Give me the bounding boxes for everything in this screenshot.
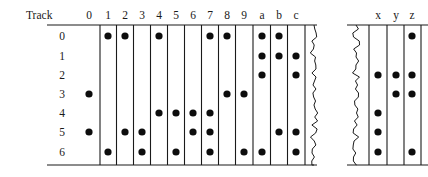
left-dot-r4-c5: [172, 109, 179, 116]
right-dot-r5-cx: [374, 128, 381, 135]
left-dot-r3-c8: [223, 90, 230, 97]
left-dot-r4-c4: [155, 109, 162, 116]
left-dot-r3-c0: [85, 90, 92, 97]
column-header-9: 9: [241, 9, 247, 21]
column-header-7: 7: [207, 9, 213, 21]
mark-dot-group: [85, 32, 415, 155]
row-label-1: 1: [59, 50, 65, 62]
left-dot-r0-c4: [155, 32, 162, 39]
row-label-group: 0123456: [59, 30, 65, 158]
right-dot-r3-cy: [392, 90, 399, 97]
left-dot-r5-c6: [189, 128, 196, 135]
right-dot-r2-cz: [408, 71, 415, 78]
track-header-label: Track: [26, 9, 53, 21]
column-header-6: 6: [190, 9, 196, 21]
break-indicator-group: [310, 25, 359, 165]
left-dot-r0-c7: [206, 32, 213, 39]
right-dot-r3-cz: [408, 90, 415, 97]
left-dot-r2-cc: [292, 71, 299, 78]
left-dot-r0-cb: [275, 32, 282, 39]
left-dot-r0-c2: [121, 32, 128, 39]
left-dot-r6-c7: [206, 148, 213, 155]
column-header-a: a: [259, 9, 264, 21]
left-dot-r5-cb: [275, 128, 282, 135]
punched-tape-track-diagram: Track 0123456789abcxyz 0123456: [0, 0, 428, 177]
left-dot-r5-c7: [206, 128, 213, 135]
row-label-4: 4: [59, 107, 65, 119]
left-dot-r6-c3: [138, 148, 145, 155]
left-dot-r5-c0: [85, 128, 92, 135]
right-panel-left-tear: [353, 25, 360, 165]
right-dot-r2-cx: [374, 71, 381, 78]
column-header-group: 0123456789abcxyz: [86, 9, 414, 22]
column-header-1: 1: [105, 9, 111, 21]
left-dot-r3-c9: [240, 90, 247, 97]
left-dot-r6-c5: [172, 148, 179, 155]
column-header-0: 0: [86, 9, 92, 21]
left-dot-r5-cc: [292, 128, 299, 135]
left-dot-r1-cc: [292, 52, 299, 59]
left-dot-r6-cc: [292, 148, 299, 155]
row-label-2: 2: [59, 69, 65, 81]
right-dot-r6-cz: [408, 148, 415, 155]
row-label-3: 3: [59, 88, 65, 100]
right-dot-r6-cx: [374, 148, 381, 155]
column-header-3: 3: [139, 9, 145, 21]
column-header-c: c: [293, 9, 298, 21]
left-dot-r6-ca: [258, 148, 265, 155]
left-dot-r0-ca: [258, 32, 265, 39]
column-header-8: 8: [224, 9, 230, 21]
left-dot-r1-ca: [258, 52, 265, 59]
left-dot-r0-c8: [223, 32, 230, 39]
left-dot-r0-c1: [104, 32, 111, 39]
row-label-5: 5: [59, 126, 65, 138]
column-header-2: 2: [122, 9, 128, 21]
right-dot-r2-cy: [392, 71, 399, 78]
left-dot-r6-c1: [104, 148, 111, 155]
right-dot-r4-cx: [374, 109, 381, 116]
vertical-gridline-group: [100, 25, 421, 165]
column-header-4: 4: [156, 9, 162, 21]
left-dot-r4-c7: [206, 109, 213, 116]
row-label-6: 6: [59, 146, 65, 158]
left-dot-r6-c9: [240, 148, 247, 155]
left-dot-r1-cb: [275, 52, 282, 59]
left-dot-r2-ca: [258, 71, 265, 78]
diagram-canvas: Track 0123456789abcxyz 0123456: [0, 0, 428, 177]
left-dot-r5-c2: [121, 128, 128, 135]
horizontal-rule-group: [47, 25, 428, 165]
row-label-0: 0: [59, 30, 65, 42]
left-panel-right-tear: [310, 25, 317, 165]
column-header-x: x: [375, 9, 381, 21]
column-header-y: y: [393, 9, 399, 22]
right-dot-r0-cz: [408, 32, 415, 39]
left-dot-r5-c3: [138, 128, 145, 135]
left-dot-r4-c6: [189, 109, 196, 116]
column-header-z: z: [409, 9, 414, 21]
column-header-b: b: [276, 9, 282, 21]
column-header-5: 5: [173, 9, 179, 21]
